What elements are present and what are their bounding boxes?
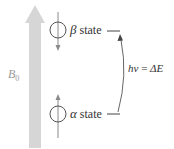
- beta-spin-icon: [50, 12, 66, 51]
- beta-state-label: β state: [70, 23, 101, 36]
- alpha-state-label: α state: [70, 107, 102, 120]
- beta-state-text: state: [79, 23, 101, 37]
- beta-symbol: β: [70, 22, 76, 37]
- energy-gap: ΔE: [150, 62, 163, 74]
- transition-arrow-icon: [118, 34, 124, 112]
- alpha-spin-icon: [50, 94, 66, 138]
- magnetic-field-arrow-icon: [25, 5, 45, 148]
- field-label: B0: [8, 68, 19, 83]
- transition-equation: hν = ΔE: [128, 63, 163, 74]
- alpha-symbol: α: [70, 106, 77, 121]
- photon-energy: hν: [128, 62, 138, 74]
- equals-sign: =: [141, 62, 147, 74]
- alpha-state-text: state: [80, 107, 102, 121]
- nmr-energy-diagram: B0 β state α state hν = ΔE: [0, 0, 174, 149]
- field-subscript: 0: [15, 74, 19, 83]
